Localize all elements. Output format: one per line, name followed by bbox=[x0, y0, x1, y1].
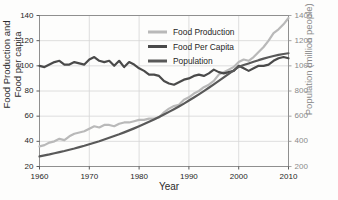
tick-marks bbox=[37, 16, 292, 170]
y-right-tick-1400: 1400 bbox=[295, 11, 323, 20]
y-right-tick-1200: 1200 bbox=[295, 36, 323, 45]
chart-screenshot: Food Production and Food per capita Popu… bbox=[0, 0, 338, 200]
y-right-tick-1000: 1000 bbox=[295, 61, 323, 70]
gridlines bbox=[40, 16, 289, 167]
data-series bbox=[40, 18, 289, 156]
y-left-tick-80: 80 bbox=[10, 86, 34, 95]
y-left-tick-20: 20 bbox=[10, 162, 34, 171]
svg-text:Food Per Capita: Food Per Capita bbox=[173, 42, 234, 52]
x-tick-2000: 2000 bbox=[222, 172, 256, 181]
y-right-tick-600: 600 bbox=[295, 111, 323, 120]
y-left-tick-120: 120 bbox=[10, 36, 34, 45]
y-right-tick-200: 200 bbox=[295, 162, 323, 171]
svg-text:Food Production: Food Production bbox=[173, 27, 235, 37]
y-left-tick-40: 40 bbox=[10, 136, 34, 145]
y-left-tick-100: 100 bbox=[10, 61, 34, 70]
chart-legend: Food ProductionFood Per CapitaPopulation bbox=[148, 27, 235, 66]
x-tick-2010: 2010 bbox=[272, 172, 306, 181]
y-right-tick-400: 400 bbox=[295, 136, 323, 145]
chart-figure: Food Production and Food per capita Popu… bbox=[0, 0, 338, 200]
x-tick-1990: 1990 bbox=[172, 172, 206, 181]
x-tick-1970: 1970 bbox=[72, 172, 106, 181]
x-tick-1980: 1980 bbox=[122, 172, 156, 181]
y-right-tick-800: 800 bbox=[295, 86, 323, 95]
x-tick-1960: 1960 bbox=[23, 172, 57, 181]
y-left-tick-140: 140 bbox=[10, 11, 34, 20]
y-left-tick-60: 60 bbox=[10, 111, 34, 120]
plot-area: Food ProductionFood Per CapitaPopulation bbox=[0, 0, 338, 200]
svg-text:Population: Population bbox=[173, 56, 213, 66]
